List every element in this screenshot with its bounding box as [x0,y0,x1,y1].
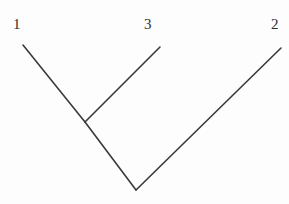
phylogenetic-tree-diagram: 1 3 2 [0,0,289,204]
taxon-label-3: 3 [144,17,152,32]
branch-taxon-1 [23,45,85,122]
branch-taxon-3 [85,47,160,122]
taxon-label-1: 1 [13,17,21,32]
branch-taxon-2 [136,48,281,190]
branch-stem [85,122,136,190]
taxon-label-2: 2 [271,17,279,32]
